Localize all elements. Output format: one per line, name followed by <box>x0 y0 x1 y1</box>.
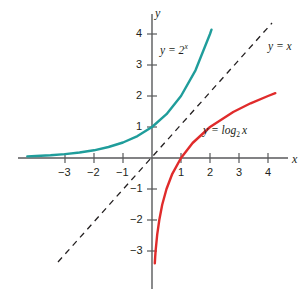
y-tick-label--1: −1 <box>130 182 143 194</box>
y-tick-label-3: 3 <box>136 58 142 70</box>
x-axis-label: x <box>292 152 297 167</box>
identity-line-label: y = x <box>268 40 292 52</box>
y-tick-label-1: 1 <box>136 120 142 132</box>
logarithm-curve-label: y = log2x <box>203 124 247 139</box>
plot-canvas <box>0 0 308 293</box>
x-tick-label--2: −2 <box>87 166 100 178</box>
x-tick-label-4: 4 <box>265 166 271 178</box>
y-tick-label-2: 2 <box>136 89 142 101</box>
y-tick-label--2: −2 <box>130 213 143 225</box>
graph-figure: −3 −2 −1 1 2 3 4 4 3 2 1 −1 −2 −3 x y y … <box>0 0 308 293</box>
exponential-curve-label: y = 2x <box>160 42 188 56</box>
exponential-label-exponent: x <box>184 42 187 51</box>
axes-group <box>18 14 288 289</box>
y-axis-label: y <box>155 6 160 21</box>
x-tick-label--1: −1 <box>116 166 129 178</box>
logarithm-curve <box>155 93 275 263</box>
log-label-argument: x <box>240 124 247 136</box>
exponential-label-base: y = 2 <box>160 44 184 56</box>
x-tick-label--3: −3 <box>58 166 71 178</box>
x-tick-label-1: 1 <box>178 166 184 178</box>
x-tick-label-3: 3 <box>236 166 242 178</box>
log-label-base: y = log <box>203 124 236 136</box>
x-tick-label-2: 2 <box>207 166 213 178</box>
y-tick-label--3: −3 <box>130 244 143 256</box>
identity-line <box>58 23 272 262</box>
y-tick-label-4: 4 <box>136 27 142 39</box>
